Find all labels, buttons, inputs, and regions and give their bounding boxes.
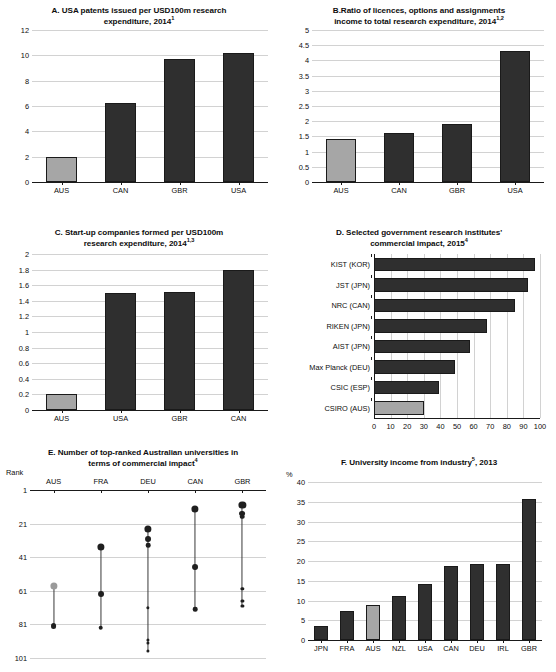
panel-d-title-line1: D. Selected government research institut… xyxy=(336,228,502,237)
y-tick-mark xyxy=(371,336,372,339)
bar-csic-esp xyxy=(374,381,439,395)
x-tick-mark xyxy=(477,640,478,643)
bar-usa xyxy=(500,51,530,182)
panel-c-title-superscript: 1,3 xyxy=(187,237,195,243)
bar-aist-jpn xyxy=(374,340,470,354)
bar-aus xyxy=(46,157,77,182)
y-axis-tick-label: 1 xyxy=(23,486,27,495)
bar-gbr xyxy=(164,292,195,410)
bar-usa xyxy=(223,53,254,182)
x-axis-tick-label-aus: AUS xyxy=(365,644,380,653)
y-axis-tick-label: 4.5 xyxy=(299,41,309,50)
rank-dot-deu xyxy=(146,543,151,548)
x-axis-tick-label: 100 xyxy=(534,422,546,431)
panel-c-plot-area: 00.20.40.60.811.21.41.61.82AUSUSAGBRCAN xyxy=(32,254,268,410)
panel-f-percent-axis-label: % xyxy=(286,470,293,479)
x-tick-mark xyxy=(373,640,374,643)
panel-a: A. USA patents issued per USD100m resear… xyxy=(0,0,278,210)
x-axis-line xyxy=(32,410,268,411)
column-tick-mark xyxy=(101,490,102,493)
x-axis-tick-label-fra: FRA xyxy=(340,644,355,653)
x-tick-mark xyxy=(425,640,426,643)
panel-d-title: D. Selected government research institut… xyxy=(288,228,550,249)
x-axis-tick-label-usa: USA xyxy=(231,186,246,195)
y-axis-tick-label: 40 xyxy=(297,478,305,487)
panel-e-title-line2: terms of commercial impact xyxy=(88,459,194,468)
bar-usa xyxy=(418,584,432,640)
bar-can xyxy=(384,133,414,182)
panel-d-title-superscript: 4 xyxy=(465,237,468,243)
y-axis-tick-label: 10 xyxy=(297,596,305,605)
panel-f-title-line1: F. University income from industry xyxy=(341,458,472,467)
y-tick-mark xyxy=(371,357,372,360)
panel-f-plot-area: 0510152025303540JPNFRAAUSNZLUSACANDEUIRL… xyxy=(308,482,542,640)
y-axis-tick-label: 2.5 xyxy=(299,102,309,111)
x-axis-tick-label-can: CAN xyxy=(231,414,247,423)
y-axis-tick-label: 0 xyxy=(25,406,29,415)
x-tick-mark xyxy=(399,640,400,643)
bar-can xyxy=(223,270,254,410)
gridline xyxy=(308,502,542,503)
y-axis-tick-label: 2 xyxy=(305,117,309,126)
y-axis-tick-label: 35 xyxy=(297,497,305,506)
panel-e-title: E. Number of top-ranked Australian unive… xyxy=(14,448,272,469)
column-header-fra: FRA xyxy=(93,477,108,486)
x-axis-tick-label: 90 xyxy=(519,422,527,431)
x-tick-mark xyxy=(62,182,63,185)
x-tick-mark xyxy=(121,182,122,185)
y-axis-tick-label: 1.4 xyxy=(19,296,29,305)
x-axis-tick-label-deu: DEU xyxy=(469,644,485,653)
panel-b-title-line1: B.Ratio of licences, options and assignm… xyxy=(333,6,505,15)
column-header-deu: DEU xyxy=(140,477,156,486)
x-tick-mark xyxy=(457,182,458,185)
x-axis-tick-label-aus: AUS xyxy=(54,186,69,195)
y-axis-tick-label: 101 xyxy=(15,654,27,663)
y-axis-tick-label: 1 xyxy=(305,147,309,156)
y-axis-tick-label: 10 xyxy=(21,51,29,60)
range-stem-aus xyxy=(53,586,54,626)
y-axis-category-label: CSIRO (AUS) xyxy=(324,403,370,412)
bar-jst-jpn xyxy=(374,278,528,292)
panel-d-plot-area: 0102030405060708090100KIST (KOR)JST (JPN… xyxy=(374,254,540,418)
panel-d-title-line2: commercial impact, 2015 xyxy=(370,239,465,248)
bar-kist-kor xyxy=(374,258,535,272)
panel-e: E. Number of top-ranked Australian unive… xyxy=(0,444,278,672)
x-tick-mark xyxy=(503,640,504,643)
y-axis-category-label: Max Planck (DEU) xyxy=(309,362,370,371)
x-axis-tick-label: 60 xyxy=(469,422,477,431)
x-axis-tick-label: 70 xyxy=(486,422,494,431)
x-tick-mark xyxy=(451,640,452,643)
y-axis-tick-label: 15 xyxy=(297,576,305,585)
bar-irl xyxy=(496,564,510,640)
panel-c-title-line2: research expenditure, 2014 xyxy=(84,239,187,248)
vgridline xyxy=(540,254,541,418)
x-tick-mark xyxy=(180,410,181,413)
x-axis-line xyxy=(32,182,268,183)
x-tick-mark xyxy=(341,182,342,185)
rank-dot-deu xyxy=(144,525,151,532)
rank-dot-gbr xyxy=(241,604,244,607)
y-axis-tick-label: 5 xyxy=(305,26,309,35)
x-axis-tick-label-gbr: GBR xyxy=(171,414,187,423)
range-stem-fra xyxy=(100,547,101,628)
panel-c-title: C. Start-up companies formed per USD100m… xyxy=(8,228,270,249)
y-axis-category-label: CSIC (ESP) xyxy=(331,383,370,392)
x-axis-tick-label-jpn: JPN xyxy=(314,644,328,653)
y-axis-tick-label: 0 xyxy=(301,636,305,645)
rank-dot-fra xyxy=(98,591,104,597)
y-axis-tick-label: 1.5 xyxy=(299,132,309,141)
y-axis-tick-label: 3 xyxy=(305,86,309,95)
panel-d: D. Selected government research institut… xyxy=(278,224,556,440)
panel-a-title-line1: A. USA patents issued per USD100m resear… xyxy=(52,6,227,15)
x-axis-tick-label-gbr: GBR xyxy=(449,186,465,195)
bar-aus xyxy=(326,139,356,182)
panel-b-title-superscript: 1,2 xyxy=(496,15,504,21)
gridline xyxy=(308,561,542,562)
bar-gbr xyxy=(442,124,472,182)
x-tick-mark xyxy=(515,182,516,185)
bar-aus xyxy=(46,394,77,410)
rank-dot-deu xyxy=(146,641,149,644)
x-axis-tick-label-usa: USA xyxy=(417,644,432,653)
x-axis-line xyxy=(312,182,544,183)
range-stem-gbr xyxy=(242,505,243,606)
